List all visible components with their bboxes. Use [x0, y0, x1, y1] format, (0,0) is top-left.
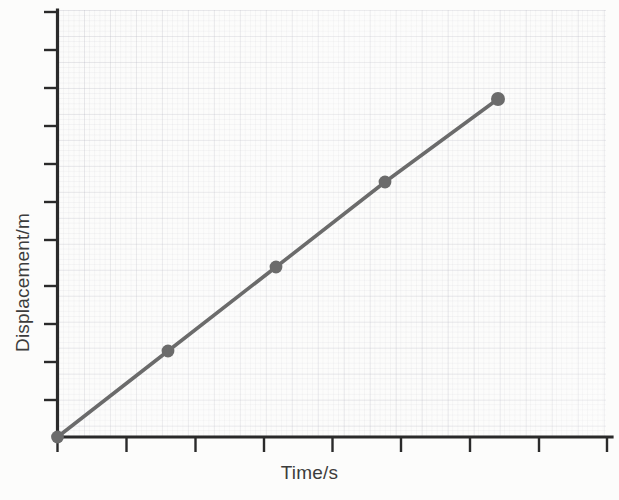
data-point	[491, 92, 505, 106]
data-series-displacement	[51, 92, 505, 443]
data-point	[162, 345, 175, 358]
chart-page: Displacement/m Time/s	[0, 0, 619, 500]
x-axis-title: Time/s	[0, 462, 619, 484]
chart-canvas	[0, 0, 619, 500]
data-point	[379, 176, 392, 189]
data-point	[51, 431, 64, 444]
data-point	[270, 261, 283, 274]
x-axis-ticks	[58, 437, 608, 452]
y-axis-ticks	[44, 12, 57, 400]
y-axis-title: Displacement/m	[12, 52, 34, 352]
